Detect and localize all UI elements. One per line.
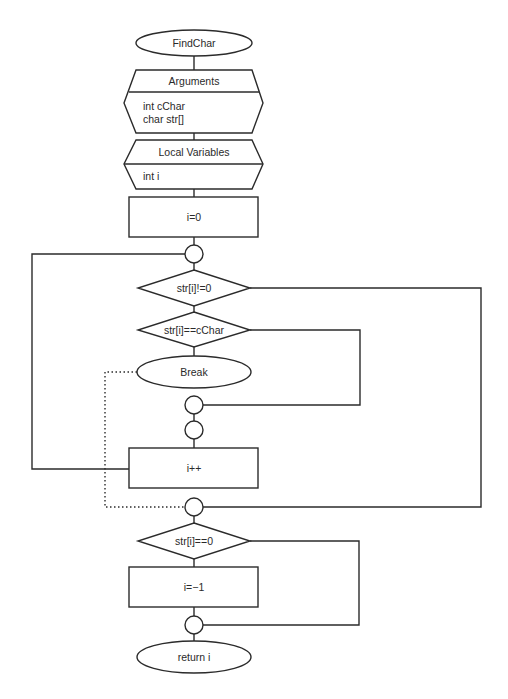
end-condition-label: str[i]==0	[175, 535, 213, 548]
locals-line-1: int i	[143, 170, 159, 183]
increment-label: i++	[187, 462, 202, 475]
end-label: return i	[178, 651, 211, 664]
start-label: FindChar	[172, 37, 215, 50]
not-found-label: i=−1	[184, 581, 204, 594]
flowchart-canvas	[0, 0, 508, 699]
loop-condition-label: str[i]!=0	[177, 282, 212, 295]
final-join-connector	[185, 616, 203, 634]
arguments-line-1: int cChar	[143, 100, 185, 113]
body-join-connector	[185, 421, 203, 439]
arguments-header: Arguments	[169, 75, 220, 88]
locals-header: Local Variables	[158, 146, 229, 159]
if-join-connector	[185, 396, 203, 414]
loop-exit-connector	[185, 498, 203, 516]
loop-join-connector	[185, 245, 203, 263]
break-label: Break	[180, 366, 207, 379]
init-label: i=0	[187, 211, 201, 224]
arguments-line-2: char str[]	[143, 113, 184, 126]
match-condition-label: str[i]==cChar	[164, 324, 224, 337]
